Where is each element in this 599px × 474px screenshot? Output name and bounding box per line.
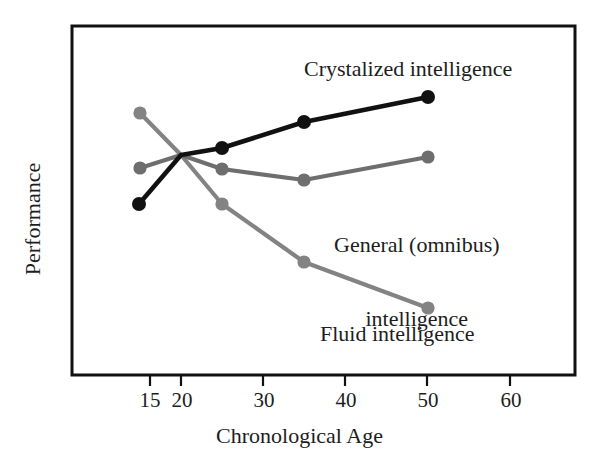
x-tick-label-60: 60 <box>501 390 522 411</box>
series-label-fluid: Fluid intelligence <box>320 322 475 347</box>
general-point-25 <box>215 162 228 175</box>
x-tick-label-30: 30 <box>254 390 275 411</box>
general-point-15 <box>133 161 146 174</box>
fluid-point-35 <box>297 255 310 268</box>
x-tick-label-50: 50 <box>418 390 439 411</box>
series-label-general: General (omnibus) intelligence <box>334 184 500 381</box>
fluid-point-15 <box>133 106 146 119</box>
chart-figure: 15 20 30 40 50 60 Chronological Age Perf… <box>0 0 599 474</box>
series-label-crystalized: Crystalized intelligence <box>304 57 512 82</box>
x-axis-title: Chronological Age <box>0 423 599 449</box>
crystalized-point-35 <box>297 115 311 129</box>
general-point-50 <box>421 150 434 163</box>
crystalized-point-50 <box>421 90 435 104</box>
crystalized-point-25 <box>215 141 229 155</box>
x-tick-label-15: 15 <box>140 390 161 411</box>
x-tick-label-20: 20 <box>172 390 193 411</box>
general-point-35 <box>297 173 310 186</box>
series-label-general-line1: General (omnibus) <box>334 233 500 258</box>
fluid-point-25 <box>215 197 228 210</box>
y-axis-title: Performance <box>20 139 46 299</box>
crystalized-point-15 <box>132 197 146 211</box>
x-tick-label-40: 40 <box>336 390 357 411</box>
